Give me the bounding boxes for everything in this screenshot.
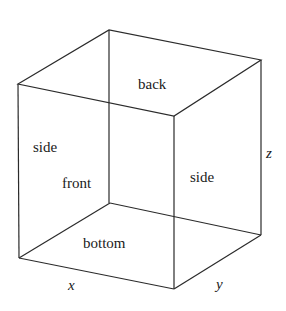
edge-left-vertical (18, 84, 19, 258)
axis-label-y: y (216, 277, 223, 292)
cube-wireframe (0, 0, 286, 311)
edge-inner-bottom-right (110, 203, 261, 235)
cube-diagram: back side side front bottom x y z (0, 0, 286, 311)
top-face-outline (18, 30, 261, 116)
axis-label-z: z (266, 146, 272, 161)
face-label-bottom: bottom (83, 236, 126, 251)
face-label-side-left: side (33, 140, 57, 155)
face-label-front: front (62, 176, 91, 191)
axis-label-x: x (68, 278, 75, 293)
face-label-side-right: side (190, 170, 214, 185)
face-label-back: back (138, 77, 166, 92)
edge-bottom-front-left (19, 258, 174, 289)
